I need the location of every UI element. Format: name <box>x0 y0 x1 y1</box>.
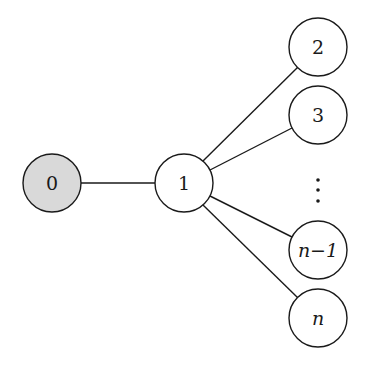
node-n-minus-1: n−1 <box>289 221 347 279</box>
edge-1-3 <box>210 128 292 170</box>
node-3-label: 3 <box>312 104 324 126</box>
node-2-label: 2 <box>312 36 324 58</box>
edge-1-2 <box>203 67 298 161</box>
node-n: n <box>289 289 347 347</box>
edge-1-n <box>203 205 298 298</box>
node-1: 1 <box>155 154 213 212</box>
edge-1-n-minus-1 <box>210 196 292 237</box>
node-n-minus-1-label: n−1 <box>298 239 338 261</box>
vertical-ellipsis-icon <box>316 178 320 203</box>
node-0: 0 <box>23 154 81 212</box>
star-graph-diagram: 0 1 2 3 n−1 n <box>0 0 374 369</box>
node-2: 2 <box>289 18 347 76</box>
node-0-label: 0 <box>46 172 58 194</box>
node-n-label: n <box>312 307 324 329</box>
node-1-label: 1 <box>178 172 190 194</box>
node-3: 3 <box>289 86 347 144</box>
